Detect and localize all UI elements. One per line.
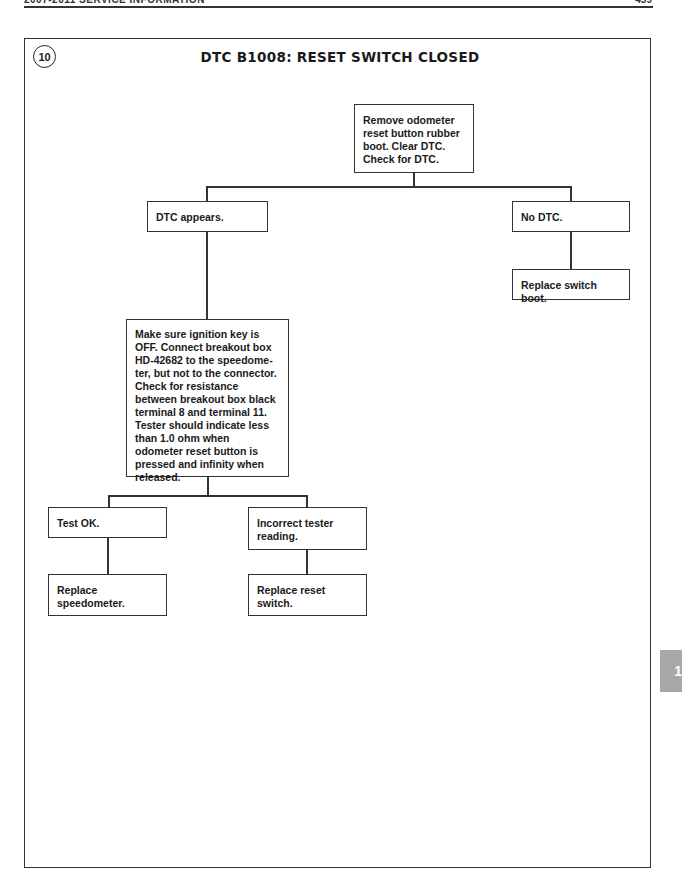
header-rule: [24, 6, 653, 8]
flow-box-replace-speedometer: Replace speedometer.: [48, 574, 167, 616]
page-title: DTC B1008: RESET SWITCH CLOSED: [200, 49, 480, 65]
connector: [108, 495, 110, 507]
connector: [306, 550, 308, 574]
flow-box-no-dtc: No DTC.: [512, 201, 630, 232]
connector: [206, 186, 571, 188]
connector: [306, 495, 308, 507]
page-number: 459: [635, 0, 652, 5]
connector: [413, 173, 415, 187]
flow-box-test-ok: Test OK.: [48, 507, 167, 538]
connector: [206, 186, 208, 201]
flow-box-start: Remove odometer reset button rubber boot…: [354, 104, 474, 173]
step-number-circle: 10: [33, 45, 56, 68]
connector: [207, 477, 209, 496]
connector: [107, 538, 109, 574]
connector: [570, 186, 572, 201]
page-frame: [24, 38, 651, 868]
chapter-tab: 1: [660, 650, 682, 692]
flow-box-replace-switch-boot: Replace switch boot.: [512, 269, 630, 300]
flow-box-replace-reset-switch: Replace reset switch.: [248, 574, 367, 616]
flow-box-dtc-appears: DTC appears.: [147, 201, 268, 232]
connector: [206, 232, 208, 319]
running-header-text: 2007-2011 SERVICE INFORMATION: [24, 0, 205, 5]
flow-box-incorrect-reading: Incorrect tester reading.: [248, 507, 367, 550]
connector: [570, 232, 572, 269]
flow-box-test-step: Make sure ignition key is OFF. Connect b…: [126, 319, 289, 477]
connector: [108, 495, 308, 497]
